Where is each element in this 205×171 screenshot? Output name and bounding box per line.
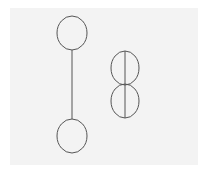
diagram-background: [10, 8, 198, 165]
diagram-canvas: [0, 0, 205, 171]
